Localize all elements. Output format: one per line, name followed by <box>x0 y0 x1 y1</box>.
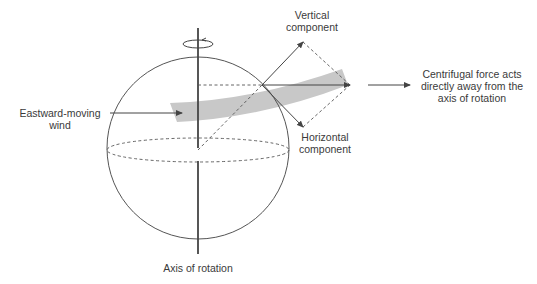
wind-band <box>170 69 348 122</box>
vertical-component-line2: component <box>272 21 352 33</box>
axis-label: Axis of rotation <box>148 262 248 274</box>
diagram-canvas <box>0 0 537 284</box>
centrifugal-line2: directly away from the <box>412 80 532 92</box>
vertical-component-label: Vertical component <box>272 9 352 33</box>
centrifugal-label: Centrifugal force acts directly away fro… <box>412 68 532 104</box>
horizontal-component-line1: Horizontal <box>285 131 365 143</box>
centrifugal-line1: Centrifugal force acts <box>412 68 532 80</box>
centrifugal-line3: axis of rotation <box>412 92 532 104</box>
vertical-component-arrow <box>262 42 303 85</box>
wind-line2: wind <box>12 119 108 131</box>
horizontal-component-line2: component <box>285 143 365 155</box>
wind-line1: Eastward-moving <box>12 107 108 119</box>
vertical-component-line1: Vertical <box>272 9 352 21</box>
horizontal-component-label: Horizontal component <box>285 131 365 155</box>
wind-label: Eastward-moving wind <box>12 107 108 131</box>
